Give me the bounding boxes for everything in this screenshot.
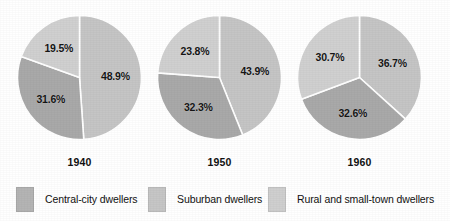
- pie-slice-label: 32.3%: [184, 101, 213, 113]
- pie-chart-1940: 1940 48.9%31.6%19.5%: [12, 10, 147, 180]
- pie-chart-figure: 1940 48.9%31.6%19.5% 1950 43.9%32.3%23.8…: [0, 0, 450, 221]
- legend-swatch-icon-central-city-dwellers: [16, 187, 34, 212]
- pie-graphic-1950: [152, 10, 287, 145]
- legend-item-suburban-dwellers: Suburban dwellers: [148, 184, 262, 214]
- legend-swatch-icon-rural-and-small-town-dwellers: [268, 187, 286, 212]
- pie-slice-label: 36.7%: [378, 57, 407, 69]
- pie-chart-1960: 1960 36.7%32.6%30.7%: [292, 10, 427, 180]
- legend-swatch-icon-suburban-dwellers: [148, 187, 166, 212]
- chart-legend: Central-city dwellers Suburban dwellers …: [0, 184, 450, 218]
- legend-item-central-city-dwellers: Central-city dwellers: [16, 184, 137, 214]
- pie-slice-label: 48.9%: [101, 70, 130, 82]
- pie-slice-label: 32.6%: [338, 107, 367, 119]
- pie-slice-label: 43.9%: [240, 65, 269, 77]
- legend-item-rural-and-small-town-dwellers: Rural and small-town dwellers: [268, 184, 434, 214]
- pie-chart-row: 1940 48.9%31.6%19.5% 1950 43.9%32.3%23.8…: [0, 0, 450, 180]
- pie-slice-label: 19.5%: [44, 42, 73, 54]
- legend-label-central-city-dwellers: Central-city dwellers: [45, 193, 137, 205]
- pie-year-label-1960: 1960: [292, 156, 427, 168]
- pie-svg: [292, 10, 427, 145]
- legend-label-suburban-dwellers: Suburban dwellers: [177, 193, 262, 205]
- pie-slice-label: 30.7%: [316, 51, 345, 63]
- pie-graphic-1960: [292, 10, 427, 145]
- pie-slice-label: 31.6%: [36, 93, 65, 105]
- legend-label-rural-and-small-town-dwellers: Rural and small-town dwellers: [297, 193, 434, 205]
- pie-chart-1950: 1950 43.9%32.3%23.8%: [152, 10, 287, 180]
- pie-slice-label: 23.8%: [181, 45, 210, 57]
- pie-year-label-1940: 1940: [12, 156, 147, 168]
- pie-svg: [152, 10, 287, 145]
- pie-year-label-1950: 1950: [152, 156, 287, 168]
